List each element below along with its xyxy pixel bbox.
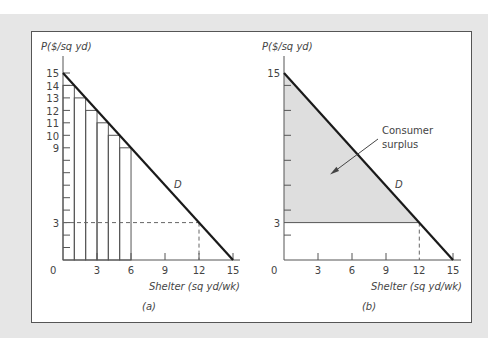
svg-text:3: 3 — [53, 218, 59, 229]
x-axis-label: Shelter (sq yd/wk) — [371, 281, 462, 292]
svg-text:13: 13 — [46, 93, 59, 104]
svg-text:9: 9 — [162, 265, 168, 276]
svg-text:9: 9 — [53, 143, 59, 154]
svg-text:12: 12 — [193, 265, 206, 276]
svg-text:12: 12 — [46, 106, 59, 117]
curve-label-d: D — [174, 179, 182, 190]
demand-diagrams: P($/sq yd) 15 14 13 12 11 10 9 3 0 3 6 9… — [0, 0, 503, 349]
x-tick-labels: 3 6 9 12 15 — [94, 265, 240, 276]
svg-text:15: 15 — [447, 265, 460, 276]
origin-label: 0 — [50, 265, 56, 276]
caption-a: (a) — [142, 301, 156, 312]
svg-text:14: 14 — [46, 81, 59, 92]
demand-curve — [63, 73, 233, 260]
x-tick-labels: 3 6 9 12 15 — [315, 265, 460, 276]
svg-text:6: 6 — [349, 265, 355, 276]
svg-text:11: 11 — [46, 118, 59, 129]
svg-text:15: 15 — [267, 68, 280, 79]
y-axis-label: P($/sq yd) — [41, 41, 92, 52]
origin-label: 0 — [271, 265, 277, 276]
svg-text:3: 3 — [94, 265, 100, 276]
svg-text:15: 15 — [227, 265, 240, 276]
svg-text:6: 6 — [128, 265, 134, 276]
svg-text:15: 15 — [46, 68, 59, 79]
panel-b: P($/sq yd) 15 3 0 3 6 9 12 15 Shelter (s… — [262, 41, 462, 312]
svg-text:10: 10 — [46, 131, 59, 142]
x-axis-label: Shelter (sq yd/wk) — [149, 281, 240, 292]
y-tick-labels: 15 14 13 12 11 10 9 3 — [46, 68, 59, 229]
panel-a: P($/sq yd) 15 14 13 12 11 10 9 3 0 3 6 9… — [41, 41, 240, 312]
curve-label-d: D — [395, 179, 403, 190]
svg-text:12: 12 — [413, 265, 426, 276]
svg-text:9: 9 — [383, 265, 389, 276]
y-axis-label: P($/sq yd) — [262, 41, 313, 52]
annotation-line2: surplus — [382, 139, 418, 150]
caption-b: (b) — [362, 301, 376, 312]
svg-text:3: 3 — [274, 218, 280, 229]
svg-text:3: 3 — [315, 265, 321, 276]
annotation-line1: Consumer — [382, 125, 434, 136]
